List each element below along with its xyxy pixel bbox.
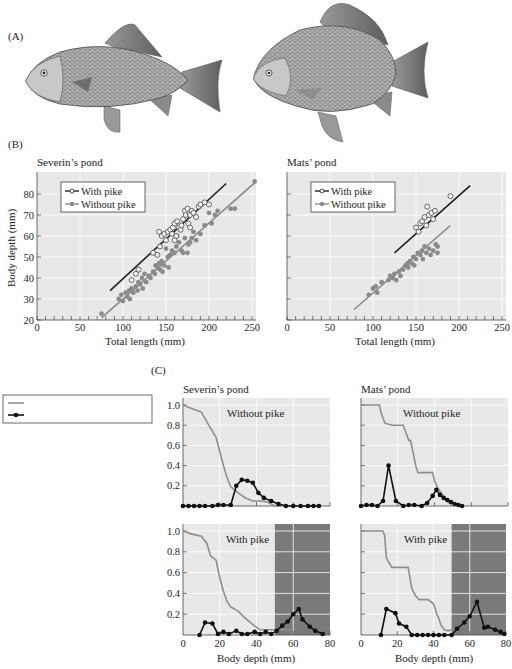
size-distribution-point [434, 488, 439, 493]
size-distribution-point [251, 480, 256, 485]
size-distribution-point [298, 504, 303, 509]
without-pike-point [422, 244, 427, 249]
size-distribution-point [234, 629, 239, 634]
size-distribution-point [412, 503, 417, 508]
size-distribution-point [386, 463, 391, 468]
without-pike-point [162, 263, 167, 268]
size-distribution-point [415, 633, 420, 638]
without-pike-point [207, 211, 212, 216]
without-pike-point [428, 253, 433, 258]
x-tick-label: 60 [288, 638, 299, 649]
size-distribution-point [216, 503, 221, 508]
without-pike-point [140, 276, 145, 281]
size-distribution-point [394, 499, 399, 504]
without-pike-point [159, 259, 164, 264]
mats-with-pike-label: With pike [404, 533, 447, 545]
x-tick-label: 80 [325, 638, 336, 649]
size-distribution-point [462, 620, 467, 625]
y-tick-label: 30 [24, 294, 35, 305]
without-pike-point [202, 223, 207, 228]
size-distribution-point [317, 504, 322, 509]
panel-label-b: (B) [8, 138, 23, 151]
without-pike-point [129, 286, 134, 291]
without-pike-point [435, 250, 440, 255]
x-tick-label: 50 [325, 322, 336, 333]
size-distribution-point [245, 478, 250, 483]
size-distribution-point [274, 629, 279, 634]
fish-illustration-deep-bodied [254, 3, 428, 142]
y-tick-label: 20 [24, 315, 35, 326]
size-distribution-point [381, 499, 386, 504]
y-tick-label: 50 [24, 252, 35, 263]
with-pike-point [424, 223, 429, 228]
without-pike-point [213, 213, 218, 218]
without-pike-point [172, 250, 177, 255]
y-tick-label: 40 [24, 273, 35, 284]
size-distribution-point [437, 633, 442, 638]
without-pike-point [392, 271, 397, 276]
without-pike-point [119, 292, 124, 297]
without-pike-point [134, 284, 139, 289]
scatter-legend: With pikeWithout pike [311, 182, 395, 212]
size-distribution-point [262, 496, 267, 501]
without-pike-point [228, 206, 233, 211]
x-tick-label: 50 [75, 322, 86, 333]
scatter-y-axis-label: Body depth (mm) [5, 209, 18, 288]
y-tick-label: 0.4 [167, 588, 181, 599]
without-pike-point [194, 238, 199, 243]
with-pike-point [416, 229, 421, 234]
fish-illustration-slender [26, 24, 222, 132]
x-tick-label: 100 [365, 322, 381, 333]
with-pike-point [448, 194, 453, 199]
size-distribution-point [425, 501, 430, 506]
with-pike-point [194, 215, 199, 220]
size-distribution-point [252, 630, 257, 635]
with-pike-point [129, 278, 134, 283]
size-distribution-point [502, 632, 507, 637]
mats-scatter-plot: 050100150200250With pikeWithout pike [284, 172, 510, 333]
mats-c-x-axis-label: Body depth (mm) [395, 652, 474, 665]
size-distribution-point [375, 504, 380, 509]
size-distribution-point [486, 624, 491, 629]
without-pike-point [412, 263, 417, 268]
size-distribution-point [460, 504, 465, 509]
without-pike-point [185, 250, 190, 255]
size-distribution-point [420, 633, 425, 638]
size-distribution-point [203, 504, 208, 509]
y-tick-label: 70 [24, 210, 35, 221]
y-tick-label: 0.2 [167, 480, 180, 491]
without-pike-point [418, 253, 423, 258]
x-tick-label: 0 [358, 638, 363, 649]
mats-c-title: Mats’ pond [361, 383, 411, 395]
y-tick-label: 0.4 [167, 460, 181, 471]
x-tick-label: 20 [215, 638, 226, 649]
size-distribution-point [379, 633, 384, 638]
size-distribution-point [311, 504, 316, 509]
without-pike-point [174, 244, 179, 249]
without-pike-point [181, 250, 186, 255]
size-distribution-point [197, 633, 202, 638]
size-distribution-point [449, 633, 454, 638]
severin-with-pike-label: With pike [226, 533, 269, 545]
size-distribution-legend-marker [14, 413, 19, 418]
size-distribution-point [307, 624, 312, 629]
with-pike-point [431, 217, 436, 222]
x-tick-label: 0 [284, 322, 289, 333]
x-tick-label: 200 [451, 322, 467, 333]
mats-without-pike-label: Without pike [403, 407, 460, 419]
size-distribution-point [291, 504, 296, 509]
severin-c-x-axis-label: Body depth (mm) [217, 652, 296, 665]
without-pike-point [127, 297, 132, 302]
without-pike-point [160, 269, 165, 274]
without-pike-point [198, 232, 203, 237]
x-tick-label: 0 [180, 638, 185, 649]
without-pike-point [414, 257, 419, 262]
size-distribution-point [364, 503, 369, 508]
size-distribution-point [240, 632, 245, 637]
legend-without-pike: Without pike [331, 199, 386, 210]
without-pike-point [188, 240, 193, 245]
size-distribution-point [467, 614, 472, 619]
x-tick-label: 100 [115, 322, 131, 333]
y-tick-label: 0.2 [167, 609, 180, 620]
without-pike-point [379, 280, 384, 285]
